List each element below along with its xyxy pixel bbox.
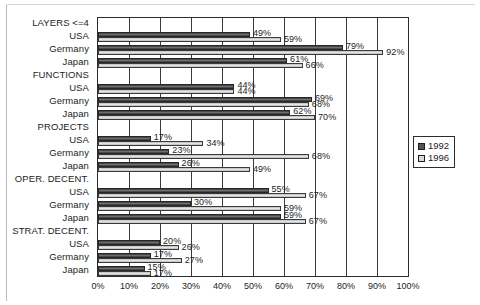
bar-value-1996: 68% <box>312 152 330 161</box>
category-label-germany: Germany <box>49 96 89 106</box>
bar-value-1996: 66% <box>306 61 324 70</box>
bar-1992-germany[interactable] <box>98 45 343 50</box>
bar-1992-usa[interactable] <box>98 188 269 193</box>
bar-1996-germany[interactable] <box>98 258 182 263</box>
gridline-80 <box>346 18 347 276</box>
category-axis-labels: LAYERS <=4USAGermanyJapanFUNCTIONSUSAGer… <box>0 17 93 277</box>
bar-value-1996: 26% <box>182 243 200 252</box>
bar-1992-japan[interactable] <box>98 266 145 271</box>
bar-1992-germany[interactable] <box>98 201 191 206</box>
plot-area: 49%59%79%92%61%66%44%44%69%68%62%70%17%3… <box>97 17 409 277</box>
bar-1992-usa[interactable] <box>98 240 160 245</box>
legend-item-1992[interactable]: 1992 <box>418 140 449 152</box>
category-label-japan: Japan <box>63 57 89 67</box>
category-label-germany: Germany <box>49 44 89 54</box>
bar-1992-usa[interactable] <box>98 84 234 89</box>
bar-value-1996: 67% <box>309 217 327 226</box>
legend-label-1992: 1992 <box>428 141 449 151</box>
x-tick-label: 60% <box>275 281 293 291</box>
bar-value-1996: 67% <box>309 191 327 200</box>
bar-1992-japan[interactable] <box>98 162 179 167</box>
bar-value-1996: 34% <box>206 139 224 148</box>
bar-value-1996: 70% <box>318 113 336 122</box>
x-tick-label: 20% <box>151 281 169 291</box>
x-tick-label: 100% <box>396 281 419 291</box>
bar-1992-japan[interactable] <box>98 58 287 63</box>
bar-value-1996: 44% <box>237 87 255 96</box>
category-label-japan: Japan <box>63 213 89 223</box>
bar-1992-japan[interactable] <box>98 214 281 219</box>
chart-legend: 1992 1996 <box>413 136 455 168</box>
bar-1996-japan[interactable] <box>98 115 315 120</box>
bar-1996-japan[interactable] <box>98 63 303 68</box>
x-tick-label: 40% <box>213 281 231 291</box>
category-label-japan: Japan <box>63 109 89 119</box>
bar-1992-germany[interactable] <box>98 253 151 258</box>
bar-1996-japan[interactable] <box>98 167 250 172</box>
bar-1996-japan[interactable] <box>98 271 151 276</box>
x-tick-label: 30% <box>182 281 200 291</box>
bar-value-1996: 27% <box>185 256 203 265</box>
group-label: FUNCTIONS <box>33 70 89 80</box>
bar-value-1996: 92% <box>386 48 404 57</box>
category-label-germany: Germany <box>49 200 89 210</box>
x-tick-label: 70% <box>306 281 324 291</box>
group-label: PROJECTS <box>38 122 89 132</box>
gridline-70 <box>315 18 316 276</box>
bar-1992-japan[interactable] <box>98 110 290 115</box>
page-border-top <box>6 4 475 5</box>
group-label: STRAT. DECENT. <box>12 226 89 236</box>
bar-value-1996: 68% <box>312 100 330 109</box>
bar-1996-germany[interactable] <box>98 50 383 55</box>
legend-item-1996[interactable]: 1996 <box>418 152 449 164</box>
bar-1992-usa[interactable] <box>98 136 151 141</box>
group-label: OPER. DECENT. <box>15 174 89 184</box>
bar-1996-japan[interactable] <box>98 219 306 224</box>
bar-1996-usa[interactable] <box>98 89 234 94</box>
x-tick-label: 10% <box>120 281 138 291</box>
category-label-usa: USA <box>69 135 89 145</box>
category-label-japan: Japan <box>63 265 89 275</box>
bar-1996-germany[interactable] <box>98 154 309 159</box>
bar-value-1996: 49% <box>253 165 271 174</box>
x-tick-label: 80% <box>337 281 355 291</box>
category-label-usa: USA <box>69 187 89 197</box>
bar-1992-germany[interactable] <box>98 97 312 102</box>
x-tick-label: 0% <box>91 281 104 291</box>
bar-value-1996: 59% <box>284 35 302 44</box>
legend-swatch-1992-icon <box>418 143 425 150</box>
x-tick-label: 50% <box>244 281 262 291</box>
category-label-japan: Japan <box>63 161 89 171</box>
bar-value-1996: 17% <box>154 269 172 278</box>
bar-chart: LAYERS <=4USAGermanyJapanFUNCTIONSUSAGer… <box>0 0 480 305</box>
category-label-germany: Germany <box>49 148 89 158</box>
group-label: LAYERS <=4 <box>32 18 89 28</box>
gridline-90 <box>377 18 378 276</box>
legend-swatch-1996-icon <box>418 155 425 162</box>
x-tick-label: 90% <box>368 281 386 291</box>
category-label-germany: Germany <box>49 252 89 262</box>
bar-1996-germany[interactable] <box>98 102 309 107</box>
category-label-usa: USA <box>69 83 89 93</box>
legend-label-1996: 1996 <box>428 153 449 163</box>
category-label-usa: USA <box>69 239 89 249</box>
bar-1996-germany[interactable] <box>98 206 281 211</box>
bar-1992-germany[interactable] <box>98 149 169 154</box>
category-label-usa: USA <box>69 31 89 41</box>
bar-1992-usa[interactable] <box>98 32 250 37</box>
bar-1996-usa[interactable] <box>98 37 281 42</box>
